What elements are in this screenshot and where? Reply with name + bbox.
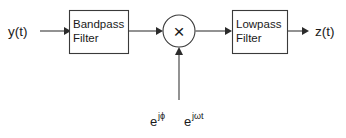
oscillator-term1-exponent: jϕ <box>157 111 165 121</box>
oscillator-term1-base: e <box>150 114 157 129</box>
arrowhead-into-multiplier-bottom <box>175 47 183 55</box>
multiply-icon: × <box>173 21 184 42</box>
arrowhead-into-lowpass <box>225 27 232 35</box>
oscillator-term2-base: e <box>184 114 191 129</box>
arrowhead-to-output <box>302 27 309 35</box>
arrowhead-into-multiplier <box>156 27 163 35</box>
block-diagram: y(t) Bandpass Filter × Lowpass Filter z(… <box>0 0 346 138</box>
output-signal-label: z(t) <box>315 24 335 39</box>
oscillator-term2-exponent: jωt <box>191 111 204 121</box>
input-signal-label: y(t) <box>8 24 28 39</box>
bandpass-filter-label-line2: Filter <box>73 32 99 44</box>
bandpass-filter-label-line1: Bandpass <box>73 18 124 30</box>
diagram-canvas: y(t) Bandpass Filter × Lowpass Filter z(… <box>0 0 346 138</box>
lowpass-filter-label-line1: Lowpass <box>236 18 282 30</box>
lowpass-filter-label-line2: Filter <box>236 32 262 44</box>
